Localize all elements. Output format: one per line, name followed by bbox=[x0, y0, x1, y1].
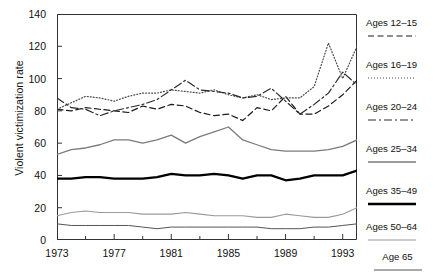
legend-item-label: Ages 35–49 bbox=[366, 186, 435, 196]
x-tick-label: 1973 bbox=[37, 248, 77, 259]
y-tick-label: 80 bbox=[12, 106, 46, 117]
x-tick-label: 1993 bbox=[323, 248, 363, 259]
legend-item[interactable]: Age 65 bbox=[366, 252, 435, 273]
legend-swatch bbox=[368, 75, 416, 81]
legend-item-label: Ages 12–15 bbox=[366, 18, 435, 28]
legend-item[interactable]: Ages 50–64 bbox=[366, 222, 435, 243]
legend-item-label: Age 65 bbox=[366, 252, 429, 262]
series-line-2 bbox=[57, 43, 357, 109]
legend-line-sample bbox=[368, 201, 416, 207]
plot-area bbox=[57, 14, 357, 240]
legend: Ages 12–15Ages 16–19Ages 20–24Ages 25–34… bbox=[366, 0, 435, 268]
y-tick-label: 0 bbox=[12, 235, 46, 246]
legend-item-label: Ages 16–19 bbox=[366, 60, 435, 70]
series-line-7 bbox=[57, 224, 357, 229]
legend-swatch bbox=[368, 201, 416, 207]
x-tick-label: 1977 bbox=[94, 248, 134, 259]
x-tick-label: 1985 bbox=[208, 248, 248, 259]
y-tick-label: 140 bbox=[12, 9, 46, 20]
legend-item[interactable]: Ages 12–15 bbox=[366, 18, 435, 39]
legend-line-sample bbox=[368, 117, 416, 123]
legend-item[interactable]: Ages 16–19 bbox=[366, 60, 435, 81]
y-tick-label: 60 bbox=[12, 138, 46, 149]
legend-swatch bbox=[368, 159, 416, 165]
legend-swatch bbox=[374, 267, 422, 273]
legend-line-sample bbox=[368, 159, 416, 165]
legend-item[interactable]: Ages 35–49 bbox=[366, 186, 435, 207]
legend-line-sample bbox=[368, 237, 416, 243]
series-line-5 bbox=[57, 171, 357, 181]
line-chart-svg bbox=[57, 14, 357, 240]
plot-frame bbox=[58, 15, 357, 240]
legend-line-sample bbox=[374, 267, 422, 273]
legend-swatch bbox=[368, 33, 416, 39]
series-line-3 bbox=[57, 72, 357, 116]
x-tick-label: 1989 bbox=[266, 248, 306, 259]
y-tick-label: 100 bbox=[12, 74, 46, 85]
y-tick-label: 20 bbox=[12, 203, 46, 214]
legend-line-sample bbox=[368, 75, 416, 81]
legend-item-label: Ages 25–34 bbox=[366, 144, 435, 154]
legend-swatch bbox=[368, 237, 416, 243]
x-tick-label: 1981 bbox=[151, 248, 191, 259]
series-line-4 bbox=[57, 127, 357, 154]
legend-item-label: Ages 50–64 bbox=[366, 222, 435, 232]
legend-swatch bbox=[368, 117, 416, 123]
legend-item[interactable]: Ages 25–34 bbox=[366, 144, 435, 165]
series-line-6 bbox=[57, 208, 357, 218]
y-tick-label: 120 bbox=[12, 41, 46, 52]
legend-item[interactable]: Ages 20–24 bbox=[366, 102, 435, 123]
legend-item-label: Ages 20–24 bbox=[366, 102, 435, 112]
y-tick-label: 40 bbox=[12, 170, 46, 181]
legend-line-sample bbox=[368, 33, 416, 39]
